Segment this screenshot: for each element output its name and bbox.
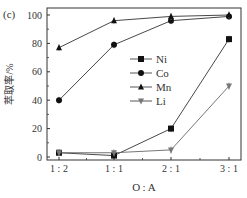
y-axis-label: 萃取率/% xyxy=(3,63,15,104)
series-ni xyxy=(56,36,232,159)
legend-marker xyxy=(138,70,144,76)
x-tick-label: 1 : 1 xyxy=(105,163,123,174)
x-tick-label: 3 : 1 xyxy=(220,163,238,174)
legend-label: Co xyxy=(156,67,169,79)
data-point xyxy=(56,97,62,103)
plot-frame xyxy=(47,8,241,160)
legend-marker xyxy=(138,56,144,62)
plot-area: 0204060801001 : 21 : 12 : 13 : 1 xyxy=(27,8,241,174)
y-tick-label: 40 xyxy=(32,95,42,106)
series-line xyxy=(59,15,229,48)
data-point xyxy=(168,126,174,132)
legend-item-li: Li xyxy=(130,95,166,107)
x-tick-label: 2 : 1 xyxy=(162,163,180,174)
data-point xyxy=(111,42,117,48)
series-mn xyxy=(56,12,232,52)
legend-item-ni: Ni xyxy=(130,53,167,65)
x-tick-label: 1 : 2 xyxy=(50,163,68,174)
legend-label: Ni xyxy=(156,53,167,65)
y-tick-label: 20 xyxy=(32,123,42,134)
legend-marker xyxy=(138,84,144,90)
series-line xyxy=(59,86,229,153)
y-tick-label: 100 xyxy=(27,10,42,21)
y-tick-label: 0 xyxy=(37,152,42,163)
series-li xyxy=(56,83,232,157)
y-tick-label: 60 xyxy=(32,66,42,77)
legend-marker xyxy=(138,99,144,105)
legend-label: Li xyxy=(156,95,166,107)
panel-label: (c) xyxy=(3,8,16,21)
data-series xyxy=(56,12,232,160)
chart: 0204060801001 : 21 : 12 : 13 : 1 NiCoMnL… xyxy=(0,0,247,198)
legend-item-mn: Mn xyxy=(130,81,172,93)
data-point xyxy=(56,44,62,50)
legend-label: Mn xyxy=(156,81,172,93)
y-tick-label: 80 xyxy=(32,38,42,49)
data-point xyxy=(226,36,232,42)
x-axis-label: O : A xyxy=(132,181,155,193)
legend: NiCoMnLi xyxy=(130,53,172,107)
legend-item-co: Co xyxy=(130,67,169,79)
